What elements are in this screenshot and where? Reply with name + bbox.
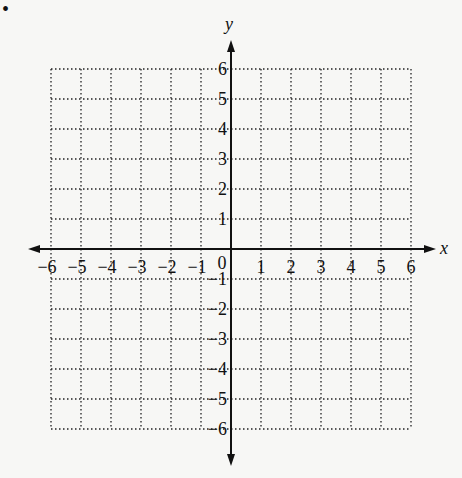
y-tick-label: 1 bbox=[218, 209, 227, 229]
x-tick-label: −6 bbox=[37, 257, 56, 277]
x-tick-label: 5 bbox=[377, 257, 386, 277]
y-axis-arrow-down bbox=[227, 454, 235, 466]
x-tick-label: −3 bbox=[127, 257, 146, 277]
coordinate-plane: x y −6−5−4−3−2−1123456654321−1−2−3−4−5−6… bbox=[0, 0, 462, 478]
y-tick-label: −2 bbox=[208, 299, 227, 319]
x-axis-arrow-left bbox=[28, 245, 40, 253]
x-tick-label: −1 bbox=[187, 257, 206, 277]
y-tick-label: 3 bbox=[218, 149, 227, 169]
y-tick-label: 5 bbox=[218, 89, 227, 109]
origin-label: 0 bbox=[218, 253, 227, 273]
x-tick-label: −5 bbox=[67, 257, 86, 277]
axes bbox=[28, 40, 436, 466]
x-tick-label: 3 bbox=[317, 257, 326, 277]
y-axis-arrow-up bbox=[227, 40, 235, 52]
x-tick-label: 2 bbox=[287, 257, 296, 277]
y-tick-label: 2 bbox=[218, 179, 227, 199]
y-axis-label: y bbox=[223, 14, 233, 34]
x-tick-label: 4 bbox=[347, 257, 356, 277]
x-axis-arrow-right bbox=[424, 245, 436, 253]
y-tick-label: −5 bbox=[208, 389, 227, 409]
x-tick-label: −4 bbox=[97, 257, 116, 277]
y-tick-label: −6 bbox=[208, 419, 227, 439]
x-tick-label: −2 bbox=[157, 257, 176, 277]
x-axis-label: x bbox=[439, 238, 448, 258]
x-tick-label: 1 bbox=[257, 257, 266, 277]
y-tick-label: −3 bbox=[208, 329, 227, 349]
y-tick-label: 6 bbox=[218, 59, 227, 79]
x-tick-label: 6 bbox=[407, 257, 416, 277]
y-tick-label: −4 bbox=[208, 359, 227, 379]
y-tick-label: 4 bbox=[218, 119, 227, 139]
